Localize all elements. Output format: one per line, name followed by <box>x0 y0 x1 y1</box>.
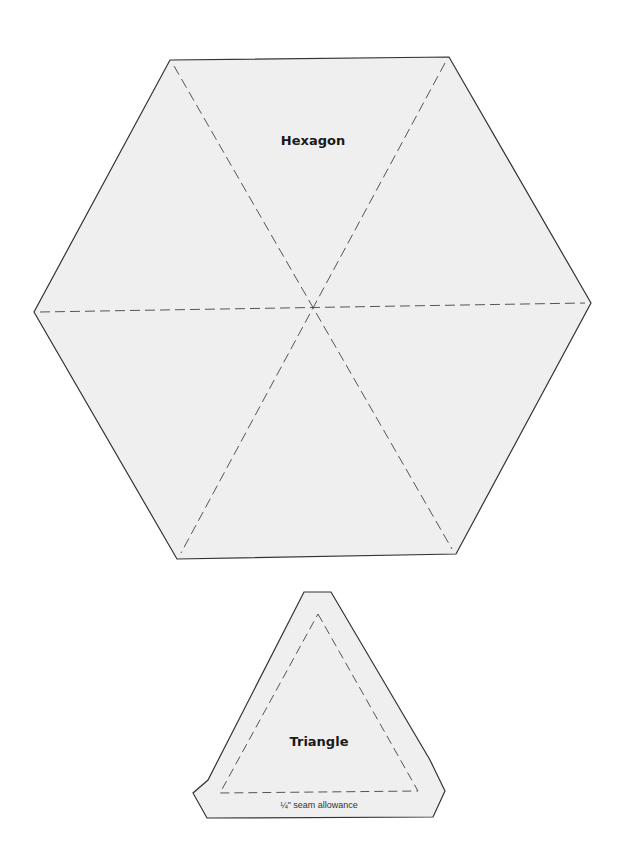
hexagon-template: Hexagon <box>34 57 591 559</box>
triangle-template: Triangle ¼" seam allowance <box>193 592 445 818</box>
hexagon-label: Hexagon <box>281 133 345 148</box>
triangle-outline <box>193 592 445 818</box>
triangle-label: Triangle <box>290 734 349 749</box>
pattern-template-canvas: Hexagon Triangle ¼" seam allowance <box>0 0 632 865</box>
seam-allowance-label: ¼" seam allowance <box>280 800 358 810</box>
